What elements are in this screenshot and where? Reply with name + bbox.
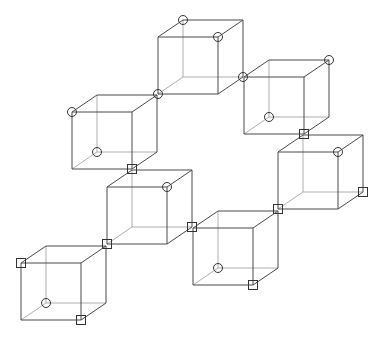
background bbox=[0, 0, 381, 338]
linked-cubes-diagram bbox=[0, 0, 381, 338]
